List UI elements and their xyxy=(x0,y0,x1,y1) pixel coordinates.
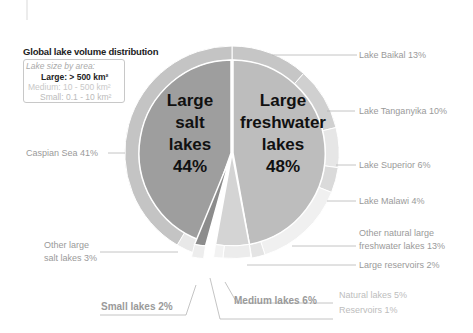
label-large-reservoirs: Large reservoirs 2% xyxy=(359,260,440,271)
ring-natural-lakes xyxy=(223,244,251,258)
label-small-lakes: Small lakes 2% xyxy=(101,301,173,312)
label-malawi: Lake Malawi 4% xyxy=(359,196,425,207)
label-other-fresh-1: Other natural large xyxy=(359,228,434,239)
legend: Lake size by area: Large: > 500 km² Medi… xyxy=(23,59,125,103)
label-large-freshwater: Large freshwater lakes 48% xyxy=(228,90,338,178)
label-other-salt-1: Other large xyxy=(44,240,89,251)
label-natural-lakes: Natural lakes 5% xyxy=(339,290,407,301)
label-reservoirs: Reservoirs 1% xyxy=(339,305,398,316)
ring-small-lakes xyxy=(192,245,206,259)
label-other-salt-2: salt lakes 3% xyxy=(44,253,97,264)
label-tanganyika: Lake Tanganyika 10% xyxy=(359,106,447,117)
label-baikal: Lake Baikal 13% xyxy=(359,50,426,61)
chart-title: Global lake volume distribution xyxy=(23,46,158,57)
label-other-fresh-2: freshwater lakes 13% xyxy=(359,241,445,252)
label-medium-lakes: Medium lakes 6% xyxy=(234,295,317,306)
legend-small: Small: 0.1 - 10 km² xyxy=(40,92,111,102)
ring-reservoirs xyxy=(214,245,225,259)
legend-medium: Medium: 10 - 500 km² xyxy=(28,82,111,92)
legend-heading: Lake size by area: xyxy=(26,61,95,71)
label-large-salt: Large salt lakes 44% xyxy=(150,90,230,178)
label-superior: Lake Superior 6% xyxy=(359,160,431,171)
label-caspian: Caspian Sea 41% xyxy=(26,148,98,159)
legend-large: Large: > 500 km² xyxy=(41,72,108,82)
